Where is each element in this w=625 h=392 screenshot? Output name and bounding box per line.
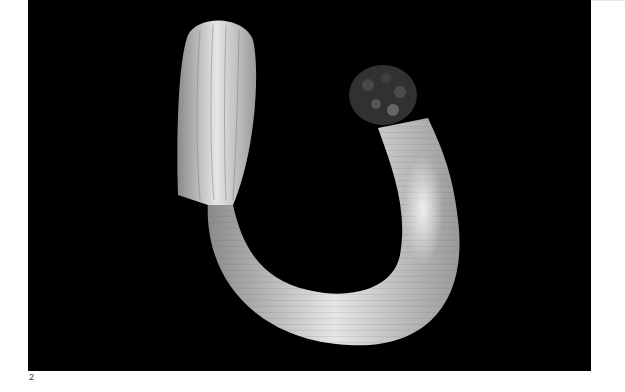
figure-photo [28,0,591,371]
figure-caption-number: 2 [29,372,34,382]
specimen-illustration [28,0,591,371]
tuft [349,65,417,125]
page-edge [591,0,625,1]
